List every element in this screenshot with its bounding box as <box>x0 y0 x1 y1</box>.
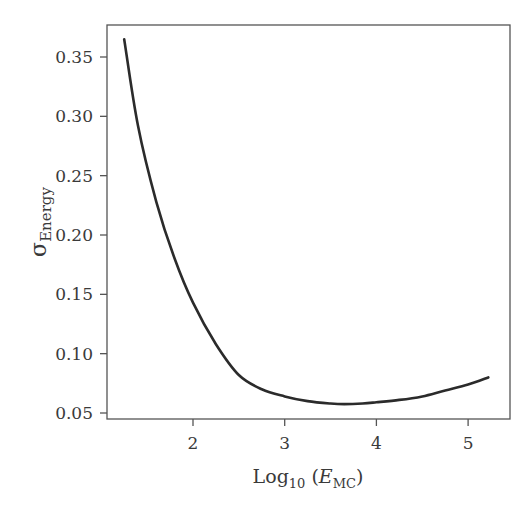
y-axis-title: σEnergy <box>26 187 55 257</box>
x-tick-label: 3 <box>279 433 290 453</box>
y-tick-label: 0.25 <box>55 166 93 186</box>
data-series-line <box>124 39 488 404</box>
x-tick-label: 4 <box>371 433 382 453</box>
y-tick-label: 0.30 <box>55 106 93 126</box>
x-tick-label: 5 <box>463 433 474 453</box>
plot-frame <box>107 25 510 419</box>
x-axis-title: Log10 (EMC) <box>253 465 364 491</box>
x-tick-label: 2 <box>188 433 199 453</box>
y-axis-ticks: 0.050.100.150.200.250.300.35 <box>55 47 107 423</box>
y-tick-label: 0.15 <box>55 284 93 304</box>
chart: 0.050.100.150.200.250.300.35 2345 σEnerg… <box>0 0 529 507</box>
y-tick-label: 0.05 <box>55 403 93 423</box>
y-tick-label: 0.35 <box>55 47 93 67</box>
y-tick-label: 0.10 <box>55 344 93 364</box>
x-axis-ticks: 2345 <box>188 419 474 453</box>
y-tick-label: 0.20 <box>55 225 93 245</box>
